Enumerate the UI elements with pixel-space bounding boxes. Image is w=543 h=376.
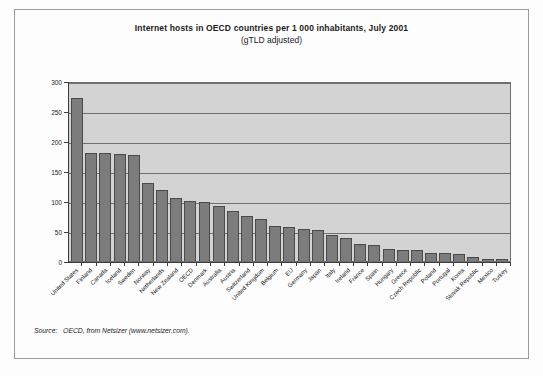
- y-tick-label: 100: [26, 199, 62, 206]
- y-tick-mark: [64, 82, 68, 83]
- x-tick-mark: [111, 262, 125, 266]
- x-tick-mark: [225, 262, 239, 266]
- x-tick-mark: [139, 262, 153, 266]
- bar: [227, 211, 239, 261]
- x-tick-mark: [197, 262, 211, 266]
- bar: [368, 245, 380, 261]
- x-label-slot: Belgium: [268, 267, 282, 327]
- x-tick-mark: [311, 262, 325, 266]
- bar: [383, 249, 395, 261]
- y-axis: [68, 82, 69, 262]
- x-axis-labels: United StatesFinlandCanadaIcelandSwedenN…: [68, 267, 511, 327]
- bar: [340, 238, 352, 261]
- x-tick-mark: [240, 262, 254, 266]
- title-block: Internet hosts in OECD countries per 1 0…: [0, 22, 543, 47]
- x-tick-mark: [468, 262, 482, 266]
- source-note: Source: OECD, from Netsizer (www.netsize…: [34, 327, 190, 334]
- x-tick-mark: [254, 262, 268, 266]
- x-tick-mark: [182, 262, 196, 266]
- source-label: Source:: [34, 327, 57, 334]
- plot-area: [68, 82, 511, 262]
- x-tick-mark: [354, 262, 368, 266]
- bar: [128, 155, 140, 261]
- x-tick-mark: [397, 262, 411, 266]
- x-tick-mark: [483, 262, 497, 266]
- x-tick-mark: [268, 262, 282, 266]
- bar: [467, 257, 479, 261]
- x-axis-ticks: [68, 262, 511, 266]
- x-tick-label: EU: [284, 267, 294, 277]
- y-tick-label: 150: [26, 169, 62, 176]
- bar: [184, 201, 196, 261]
- x-tick-mark: [168, 262, 182, 266]
- y-tick-label: 200: [26, 139, 62, 146]
- bar: [241, 216, 253, 261]
- bar: [425, 253, 437, 261]
- x-tick-mark: [497, 262, 511, 266]
- bar: [142, 183, 154, 261]
- bar: [170, 198, 182, 261]
- y-tick-label: 250: [26, 109, 62, 116]
- x-tick-mark: [454, 262, 468, 266]
- y-tick-mark: [64, 172, 68, 173]
- y-tick-mark: [64, 202, 68, 203]
- bar: [199, 202, 211, 261]
- x-label-slot: Japan: [311, 267, 325, 327]
- y-tick-mark: [64, 112, 68, 113]
- x-tick-mark: [440, 262, 454, 266]
- bar: [298, 229, 310, 261]
- x-label-slot: Turkey: [497, 267, 511, 327]
- bar: [482, 259, 494, 261]
- bar: [255, 219, 267, 261]
- bar: [283, 227, 295, 261]
- bar: [269, 226, 281, 261]
- bar: [453, 254, 465, 261]
- bar: [99, 153, 111, 261]
- y-tick-mark: [64, 232, 68, 233]
- bar: [156, 190, 168, 261]
- x-tick-mark: [383, 262, 397, 266]
- x-tick-mark: [154, 262, 168, 266]
- x-tick-mark: [411, 262, 425, 266]
- bar: [213, 206, 225, 261]
- x-tick-mark: [425, 262, 439, 266]
- x-tick-mark: [297, 262, 311, 266]
- x-tick-mark: [68, 262, 82, 266]
- bar: [114, 154, 126, 261]
- source-text: OECD, from Netsizer (www.netsizer.com).: [63, 327, 190, 334]
- bar: [71, 98, 83, 261]
- y-tick-label: 300: [26, 79, 62, 86]
- x-tick-mark: [325, 262, 339, 266]
- y-tick-label: 0: [26, 259, 62, 266]
- bar: [326, 235, 338, 261]
- y-tick-mark: [64, 142, 68, 143]
- chart-subtitle: (gTLD adjusted): [0, 34, 543, 47]
- x-tick-mark: [282, 262, 296, 266]
- bar: [439, 253, 451, 261]
- bar: [496, 259, 508, 261]
- x-tick-mark: [125, 262, 139, 266]
- x-tick-mark: [211, 262, 225, 266]
- page-title: Internet hosts in OECD countries per 1 0…: [0, 22, 543, 34]
- x-tick-mark: [368, 262, 382, 266]
- bar: [411, 250, 423, 261]
- x-tick-mark: [82, 262, 96, 266]
- bar: [85, 153, 97, 261]
- x-tick-mark: [340, 262, 354, 266]
- bar: [354, 244, 366, 261]
- bar-series: [69, 83, 510, 261]
- bar: [312, 230, 324, 261]
- x-tick-mark: [97, 262, 111, 266]
- chart-figure: Internet hosts in OECD countries per 1 0…: [0, 0, 543, 376]
- y-tick-label: 50: [26, 229, 62, 236]
- bar: [397, 250, 409, 261]
